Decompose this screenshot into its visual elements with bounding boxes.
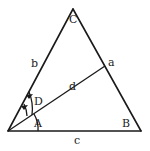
label-side-a: a — [108, 56, 115, 69]
label-angle-a: A — [33, 117, 43, 130]
triangle-diagram: C b a d D A B c — [0, 0, 150, 151]
label-side-b: b — [31, 57, 38, 70]
label-vertex-c: C — [69, 13, 77, 26]
segment-d-line — [8, 66, 105, 131]
side-b-line — [8, 9, 73, 131]
label-side-c: c — [74, 134, 80, 147]
side-a-line — [73, 9, 141, 131]
label-angle-d: D — [34, 95, 43, 108]
label-segment-d: d — [69, 80, 76, 93]
label-angle-b: B — [122, 117, 130, 130]
